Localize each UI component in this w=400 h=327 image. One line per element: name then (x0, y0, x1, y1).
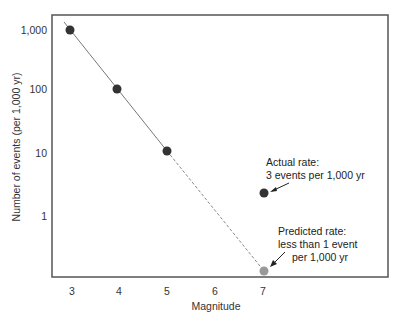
y-tick: 10 (35, 147, 47, 159)
arrow-head-icon (270, 187, 277, 192)
x-tick: 3 (69, 285, 75, 297)
x-tick: 5 (164, 285, 170, 297)
annotation-actual-line1: Actual rate: (266, 156, 319, 168)
x-tick: 7 (260, 285, 266, 297)
x-tick: 4 (116, 285, 122, 297)
point-m3 (66, 26, 75, 35)
trend-line-dashed (167, 151, 264, 271)
y-axis-label: Number of events (per 1,000 yr) (10, 73, 22, 222)
y-tick: 1,000 (21, 24, 47, 36)
y-tick: 100 (29, 83, 47, 95)
chart: 1,000 100 10 1 3 4 5 6 7 Magnitude Numbe… (0, 0, 400, 327)
x-tick: 6 (212, 285, 218, 297)
point-m5 (163, 147, 172, 156)
annotation-predicted-line2: less than 1 event (278, 238, 357, 250)
x-axis-label: Magnitude (191, 300, 240, 312)
annotation-actual-line2: 3 events per 1,000 yr (266, 169, 365, 181)
annotation-predicted-line1: Predicted rate: (278, 225, 346, 237)
point-actual (260, 189, 269, 198)
y-tick: 1 (41, 210, 47, 222)
point-m4 (113, 85, 122, 94)
annotation-predicted-line3: per 1,000 yr (292, 251, 349, 263)
point-predicted (260, 267, 269, 276)
chart-svg: 1,000 100 10 1 3 4 5 6 7 Magnitude Numbe… (0, 0, 400, 327)
